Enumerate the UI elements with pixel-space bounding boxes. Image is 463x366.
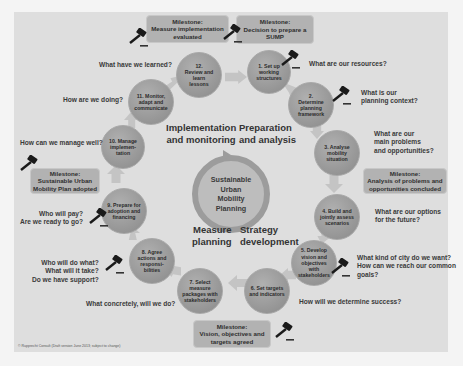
step-5-label: 5. Developvision andobjectiveswithstakeh…	[295, 244, 333, 281]
question-step-1: What are our resources?	[309, 60, 387, 68]
copyright-text: © Rupprecht Consult (Draft version June …	[18, 344, 120, 348]
step-12-circle[interactable]: 12.Review andlearnlessons	[176, 52, 222, 98]
step-10-circle[interactable]: 10. Manageimplemen-tation	[101, 125, 145, 169]
step-7-label: 7. Selectmeasurepackages withstakeholder…	[179, 276, 220, 307]
milestone-analysis-concluded: Milestone:Analysis of problems andopport…	[363, 168, 447, 194]
gavel-icon	[19, 155, 41, 175]
phase-measure: Measureplanning	[192, 224, 232, 248]
step-2-label: 2.Determineplanningframework	[295, 90, 327, 121]
question-step-9: Who will pay?Are we ready to go?	[20, 210, 83, 227]
question-step-10: How can we manage well?	[20, 139, 103, 147]
center-cycle: SustainableUrbanMobilityPlanning	[192, 155, 270, 233]
question-step-3: What are ourmain problemsand opportuniti…	[374, 130, 434, 155]
milestone-decision-sump: Milestone:Decision to prepare aSUMP	[236, 15, 314, 44]
question-step-2: What is ourplanning context?	[361, 89, 418, 106]
gavel-icon	[331, 86, 353, 106]
gavel-icon	[280, 50, 302, 70]
gavel-icon	[104, 255, 126, 275]
step-3-circle[interactable]: 3. Analysemobilitysituation	[314, 130, 360, 176]
step-4-circle[interactable]: 4. Build andjointly assessscenarios	[314, 194, 360, 240]
cycle-arrow-icon	[223, 150, 231, 160]
center-label: SustainableUrbanMobilityPlanning	[211, 175, 251, 213]
gavel-icon	[88, 208, 110, 228]
step-10-label: 10. Manageimplemen-tation	[106, 135, 140, 160]
milestone-vision-agreed: Milestone:Vision, objectives andtargets …	[193, 320, 271, 348]
step-6-label: 6. Set targetsand indicators	[246, 282, 287, 300]
step-7-circle[interactable]: 7. Selectmeasurepackages withstakeholder…	[177, 268, 223, 314]
milestone-implementation-evaluated: Milestone:Measure implementationevaluate…	[146, 15, 229, 43]
step-8-circle[interactable]: 8. Agreeactions andresponsi-bilities	[129, 238, 175, 284]
gavel-icon	[222, 24, 244, 44]
question-step-7: What concretely, will we do?	[86, 300, 175, 308]
question-step-12: What have we learned?	[99, 61, 172, 69]
gavel-icon	[128, 28, 150, 48]
phase-implementation: Implementationand monitoring	[166, 122, 236, 146]
question-step-5: What kind of city do we want?How can we …	[357, 254, 456, 279]
phase-preparation: Preparationand analysis	[239, 122, 296, 146]
question-step-4: What are our optionsfor the future?	[375, 208, 441, 225]
phase-strategy: Strategydevelopment	[240, 224, 299, 248]
step-6-circle[interactable]: 6. Set targetsand indicators	[244, 268, 290, 314]
step-4-label: 4. Build andjointly assessscenarios	[317, 205, 357, 230]
step-11-label: 11. Monitor,adapt andcommunicate	[131, 90, 170, 115]
question-step-11: How are we doing?	[63, 96, 123, 104]
question-step-8: Who will do what?What will it take?Do we…	[32, 259, 99, 284]
step-3-label: 3. Analysemobilitysituation	[321, 141, 352, 166]
step-8-label: 8. Agreeactions andresponsi-bilities	[135, 246, 170, 277]
gavel-icon	[274, 322, 296, 342]
step-11-circle[interactable]: 11. Monitor,adapt andcommunicate	[128, 79, 174, 125]
gavel-icon	[330, 258, 352, 278]
step-9-label: 9. Prepare foradoption andfinancing	[104, 199, 143, 224]
question-step-6: How will we determine success?	[299, 298, 401, 306]
step-12-label: 12.Review andlearnlessons	[182, 60, 217, 91]
